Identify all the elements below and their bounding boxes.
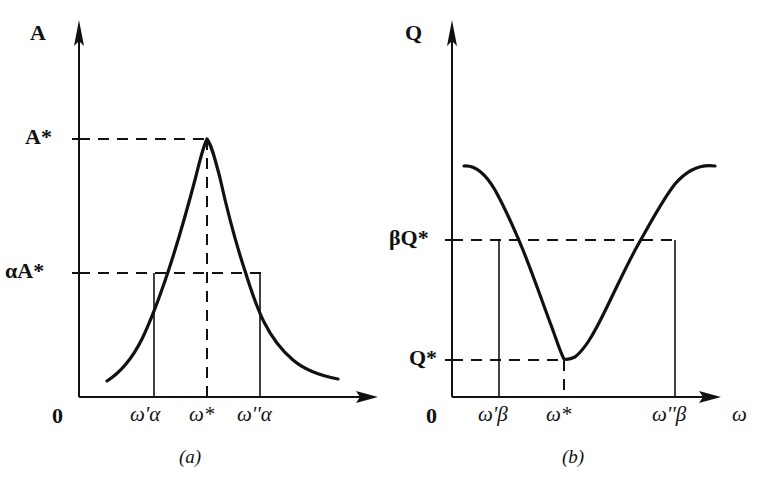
panel-b: Q βQ* Q* 0 ω'β ω* ω''β ω (b) [387, 0, 774, 484]
x-axis-a [79, 391, 378, 403]
y-tick-a-alpha-text: αA* [5, 258, 44, 283]
x-tick-label-b-omega-prime: ω'β [478, 404, 508, 425]
y-axis-label-b: Q [405, 22, 422, 44]
y-tick-label-a-peak: A* [25, 126, 52, 148]
curve-amplitude [107, 139, 338, 381]
curve-quality [464, 166, 715, 360]
x-tick-label-a-omega-prime: ω'α [130, 404, 160, 425]
caption-a: (a) [179, 447, 201, 466]
y-tick-b-beta-text: βQ* [389, 225, 429, 250]
panel-a: A A* αA* 0 ω'α ω* ω''α (a) [0, 0, 387, 484]
origin-label-a: 0 [52, 405, 63, 427]
figure-root: A A* αA* 0 ω'α ω* ω''α (a) [0, 0, 774, 484]
x-tick-label-b-omega-star: ω* [546, 404, 571, 425]
y-axis-label-a: A [30, 22, 46, 44]
y-tick-label-a-alpha: αA* [5, 260, 44, 282]
y-tick-a-peak-text: A* [25, 124, 52, 149]
y-tick-label-b-q: Q* [409, 347, 437, 369]
x-tick-label-a-omega-star: ω* [189, 404, 214, 425]
x-tick-label-b-omega-double-prime: ω''β [652, 404, 686, 425]
y-tick-b-q-text: Q* [409, 345, 437, 370]
origin-label-b: 0 [426, 405, 437, 427]
y-axis-b [447, 20, 457, 397]
panel-b-plot [387, 0, 774, 484]
y-tick-label-b-beta: βQ* [389, 227, 429, 249]
caption-b: (b) [562, 447, 584, 466]
y-axis-a [74, 20, 84, 397]
x-tick-label-a-omega-double-prime: ω''α [237, 404, 272, 425]
x-axis-label-b: ω [732, 404, 747, 425]
